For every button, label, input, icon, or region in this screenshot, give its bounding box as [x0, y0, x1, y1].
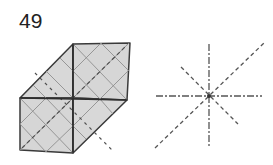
diagram-canvas — [0, 0, 273, 165]
origami-model — [20, 43, 130, 153]
crease-pattern-symbol — [155, 43, 264, 148]
